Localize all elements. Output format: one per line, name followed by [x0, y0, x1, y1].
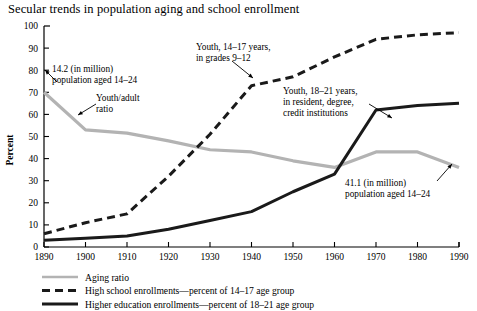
- y-tick-label: 50: [29, 132, 39, 142]
- x-tick-label: 1940: [242, 252, 261, 262]
- annotation-line: credit institutions: [283, 108, 348, 118]
- annotation-youth-adult-ratio: Youth/adultratio: [78, 93, 140, 115]
- x-tick-label: 1890: [35, 252, 54, 262]
- y-tick-label: 10: [29, 220, 39, 230]
- annotation-line: 41.1 (in million): [345, 178, 406, 189]
- legend-item: Higher education enrollments—percent of …: [42, 299, 314, 310]
- x-axis-ticks: 1890190019101920193019401950196019701980…: [35, 242, 469, 262]
- legend-item: High school enrollments—percent of 14–17…: [42, 285, 295, 296]
- axis-lines: [44, 26, 459, 247]
- annotations: 14.2 (in million)population aged 14–24Yo…: [45, 42, 452, 199]
- chart-canvas: 0102030405060708090100 18901900191019201…: [0, 0, 477, 311]
- y-tick-label: 40: [29, 154, 39, 164]
- legend-label: Aging ratio: [85, 272, 129, 283]
- y-tick-label: 0: [33, 242, 38, 252]
- annotation-line: in grades 9–12: [196, 53, 251, 63]
- annotation-aging-start: 14.2 (in million)population aged 14–24: [45, 64, 138, 85]
- y-axis-ticks: 0102030405060708090100: [24, 21, 49, 252]
- y-tick-label: 60: [29, 110, 39, 120]
- y-tick-label: 30: [29, 176, 39, 186]
- annotation-aging-end: 41.1 (in million)population aged 14–24: [345, 164, 452, 199]
- annotation-line: in resident, degree,: [283, 97, 354, 107]
- annotation-line: population aged 14–24: [345, 189, 431, 199]
- x-tick-label: 1900: [76, 252, 95, 262]
- x-tick-label: 1920: [159, 252, 178, 262]
- y-tick-label: 90: [29, 44, 39, 54]
- series-line-higher_education: [44, 103, 459, 240]
- annotation-line: ratio: [96, 104, 113, 114]
- annotation-line: 14.2 (in million): [52, 64, 113, 75]
- y-axis-title: Percent: [5, 134, 15, 166]
- x-tick-label: 1930: [201, 252, 220, 262]
- legend: Aging ratioHigh school enrollments—perce…: [42, 272, 314, 310]
- y-tick-label: 100: [24, 21, 39, 31]
- legend-label: Higher education enrollments—percent of …: [85, 299, 314, 310]
- x-tick-label: 1960: [325, 252, 344, 262]
- annotation-line: population aged 14–24: [52, 75, 138, 85]
- annotation-high-school-label: Youth, 14–17 years,in grades 9–12: [196, 42, 270, 78]
- series-line-high_school: [44, 33, 459, 234]
- annotation-line: Youth, 18–21 years,: [283, 86, 357, 96]
- x-tick-label: 1910: [118, 252, 137, 262]
- legend-label: High school enrollments—percent of 14–17…: [85, 285, 295, 296]
- annotation-line: Youth/adult: [96, 93, 140, 103]
- y-tick-label: 80: [29, 66, 39, 76]
- x-tick-label: 1980: [408, 252, 427, 262]
- legend-item: Aging ratio: [42, 272, 129, 283]
- x-tick-label: 1990: [450, 252, 469, 262]
- annotation-line: Youth, 14–17 years,: [196, 42, 270, 52]
- chart-container: Secular trends in population aging and s…: [0, 0, 477, 311]
- x-tick-label: 1970: [367, 252, 386, 262]
- x-tick-label: 1950: [284, 252, 303, 262]
- y-tick-label: 70: [29, 88, 39, 98]
- y-tick-label: 20: [29, 198, 39, 208]
- annotation-arrowhead: [78, 111, 83, 115]
